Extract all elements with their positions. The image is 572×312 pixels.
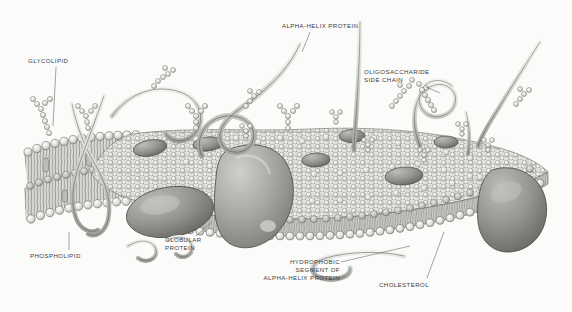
surface-protein-knob [434,136,458,148]
membrane-figure: GLYCOLIPID ALPHA-HELIX PROTEIN OLIGOSACC… [0,0,572,312]
label-oligosaccharide-line1: OLIGOSACCHARIDE [364,68,430,76]
surface-protein-knob [339,130,365,143]
label-hydrophobic-line2: SEGMENT OF [200,266,340,274]
label-oligosaccharide-line2: SIDE CHAIN [364,76,403,84]
globular-protein-right [478,168,547,252]
label-phospholipid: PHOSPHOLIPID [30,252,81,260]
label-globular-protein-line1: GLOBULAR [165,236,202,244]
label-alpha-helix-protein: ALPHA-HELIX PROTEIN [282,22,358,30]
label-hydrophobic-line1: HYDROPHOBIC [200,258,340,266]
label-glycolipid: GLYCOLIPID [28,57,68,65]
label-cholesterol: CHOLESTEROL [379,281,429,289]
label-globular-protein-line2: PROTEIN [165,244,195,252]
label-hydrophobic-line3: ALPHA-HELIX PROTEIN [200,274,340,282]
